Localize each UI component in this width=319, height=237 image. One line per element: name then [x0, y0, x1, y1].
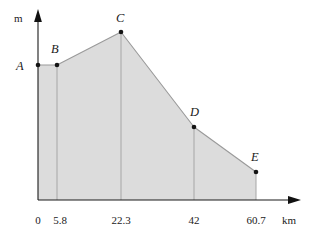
elevation-profile-chart: A B C D E m km 0 5.8 22.3 42 60.7	[0, 0, 319, 237]
profile-area-fill	[38, 32, 256, 200]
y-axis-unit-label: m	[14, 12, 23, 24]
vertex-dot-e	[254, 170, 259, 175]
vertex-label-a: A	[15, 59, 24, 73]
vertex-label-d: D	[189, 105, 199, 119]
x-tick-label-2: 22.3	[111, 214, 131, 226]
x-tick-label-3: 42	[189, 214, 200, 226]
vertex-label-b: B	[51, 42, 59, 56]
vertex-dot-b	[55, 63, 60, 68]
vertex-label-e: E	[250, 150, 259, 164]
vertex-label-c: C	[116, 11, 125, 25]
x-tick-label-4: 60.7	[246, 214, 266, 226]
x-axis-arrowhead	[288, 196, 301, 204]
vertex-dot-a	[36, 63, 41, 68]
y-axis-arrowhead	[34, 9, 42, 22]
vertex-dot-d	[192, 125, 197, 130]
vertex-dot-c	[119, 30, 124, 35]
x-tick-label-1: 5.8	[53, 214, 67, 226]
x-tick-label-0: 0	[35, 214, 41, 226]
x-axis-unit-label: km	[282, 214, 297, 226]
chart-canvas: A B C D E m km 0 5.8 22.3 42 60.7	[0, 0, 319, 237]
